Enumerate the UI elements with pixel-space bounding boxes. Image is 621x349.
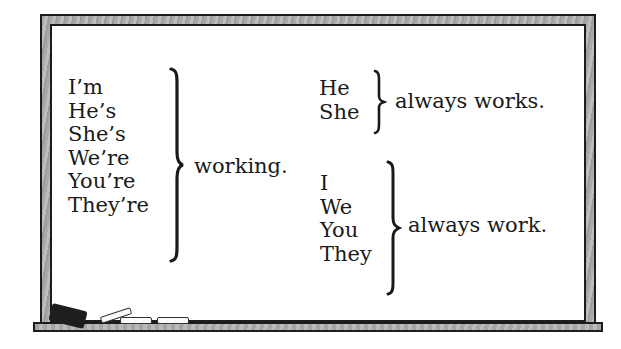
- right-bottom-predicate: always work.: [408, 214, 547, 238]
- subject-item: They’re: [68, 194, 149, 218]
- whiteboard-ledge: [33, 322, 603, 332]
- subject-item: We: [320, 196, 372, 220]
- chalk-icon: [120, 317, 152, 324]
- subject-item: He’s: [68, 100, 149, 124]
- right-brace-icon: [373, 69, 387, 135]
- chalk-icon: [157, 317, 189, 324]
- right-brace-icon: [168, 66, 186, 264]
- subject-item: She: [319, 101, 359, 125]
- left-subject-list: I’m He’s She’s We’re You’re They’re: [68, 76, 149, 217]
- subject-item: I: [320, 172, 372, 196]
- right-brace-icon: [386, 160, 402, 296]
- subject-item: He: [319, 77, 359, 101]
- right-top-predicate: always works.: [395, 90, 545, 114]
- subject-item: You’re: [68, 170, 149, 194]
- left-predicate: working.: [194, 155, 288, 179]
- right-bottom-subject-list: I We You They: [320, 172, 372, 266]
- subject-item: You: [320, 219, 372, 243]
- right-top-subject-list: He She: [319, 77, 359, 124]
- subject-item: I’m: [68, 76, 149, 100]
- subject-item: She’s: [68, 123, 149, 147]
- subject-item: They: [320, 243, 372, 267]
- subject-item: We’re: [68, 147, 149, 171]
